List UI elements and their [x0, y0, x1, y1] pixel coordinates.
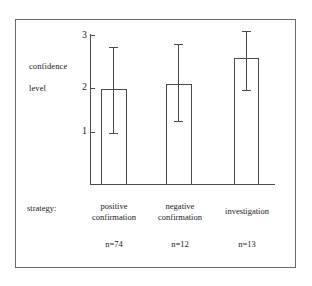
x-axis-title: strategy: — [27, 203, 56, 213]
sample-size-positive-confirmation: n=74 — [82, 239, 146, 249]
error-bar-line-investigation — [246, 31, 247, 90]
category-label-line1: negative — [148, 201, 212, 212]
y-tick-label-1: 1 — [82, 126, 87, 136]
category-label-line1: investigation — [214, 206, 280, 217]
error-bar-line-positive-confirmation — [113, 47, 114, 133]
y-tick-1 — [90, 132, 95, 133]
category-label-positive-confirmation: positive confirmation — [82, 201, 146, 223]
bar-positive-confirmation — [101, 89, 127, 185]
error-bar-cap-top-investigation — [242, 31, 251, 32]
y-tick-label-3-wrap: 3 — [72, 30, 87, 41]
y-tick-label-3: 3 — [82, 30, 87, 40]
y-axis-title-line2: level — [29, 84, 46, 93]
category-label-negative-confirmation: negative confirmation — [148, 201, 212, 223]
y-tick-label-2-wrap: 2 — [72, 82, 87, 93]
sample-size-negative-confirmation: n=12 — [148, 239, 212, 249]
figure-container: 3 2 1 confidence level strategy: — [0, 0, 312, 286]
error-bar-cap-top-positive-confirmation — [109, 47, 118, 48]
category-label-line1: positive — [82, 201, 146, 212]
category-label-line2: confirmation — [82, 212, 146, 223]
y-tick-2 — [90, 88, 95, 89]
error-bar-line-negative-confirmation — [178, 44, 179, 121]
error-bar-cap-top-negative-confirmation — [174, 44, 183, 45]
error-bar-cap-bottom-negative-confirmation — [174, 121, 183, 122]
y-tick-3 — [90, 35, 95, 36]
bar-negative-confirmation — [166, 84, 192, 185]
error-bar-cap-bottom-positive-confirmation — [109, 133, 118, 134]
plot-area: 3 2 1 confidence level strategy: — [0, 0, 312, 286]
category-label-line2: confirmation — [148, 212, 212, 223]
y-axis-title-line1: confidence — [29, 62, 67, 71]
y-axis-line — [90, 34, 91, 185]
y-tick-label-1-wrap: 1 — [72, 126, 87, 137]
y-tick-label-2: 2 — [82, 82, 87, 92]
sample-size-investigation: n=13 — [214, 239, 280, 249]
error-bar-cap-bottom-investigation — [242, 90, 251, 91]
category-label-investigation: investigation — [214, 206, 280, 217]
